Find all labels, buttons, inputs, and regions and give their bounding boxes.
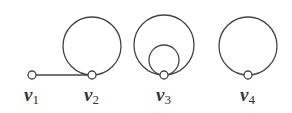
vertex-v4	[244, 71, 252, 79]
loop-v4	[219, 17, 277, 75]
label-v2: v2	[84, 85, 99, 106]
vertex-v2	[88, 71, 96, 79]
label-v4-subscript: 4	[248, 92, 255, 107]
label-v3-subscript: 3	[164, 92, 171, 107]
label-v3: v3	[156, 85, 171, 106]
vertex-v1	[28, 71, 36, 79]
vertex-v3	[160, 71, 168, 79]
label-v1: v1	[24, 85, 39, 106]
loop-v2	[63, 17, 121, 75]
label-v4: v4	[240, 85, 255, 106]
label-v2-subscript: 2	[92, 92, 99, 107]
label-v1-subscript: 1	[32, 92, 39, 107]
graph-diagram: v1 v2 v3 v4	[0, 0, 292, 113]
